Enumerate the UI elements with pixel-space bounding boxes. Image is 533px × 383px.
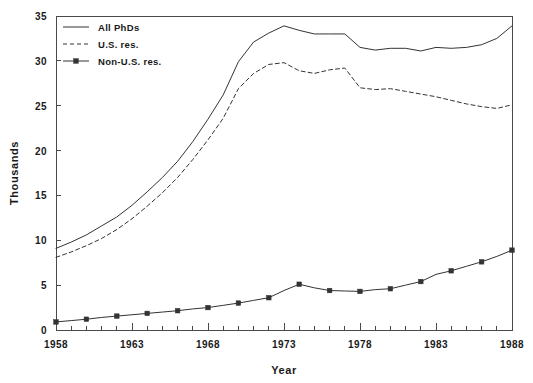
- data-series: [54, 26, 515, 324]
- series-marker: [449, 268, 454, 273]
- svg-text:25: 25: [35, 101, 47, 112]
- series-marker: [479, 260, 484, 265]
- series-marker: [419, 279, 424, 284]
- series-marker: [145, 311, 150, 316]
- plot-area: 0510152025303519581963196819731978198319…: [0, 0, 533, 383]
- svg-text:1973: 1973: [272, 339, 296, 350]
- series-marker: [267, 295, 272, 300]
- series-marker: [297, 282, 302, 287]
- x-axis-title: Year: [271, 364, 297, 376]
- legend-label-3: Non-U.S. res.: [98, 56, 162, 67]
- series-marker: [388, 286, 393, 291]
- svg-text:1978: 1978: [348, 339, 372, 350]
- series-marker: [175, 308, 180, 313]
- svg-text:1983: 1983: [424, 339, 448, 350]
- svg-text:1958: 1958: [44, 339, 68, 350]
- series-marker: [236, 301, 241, 306]
- svg-text:20: 20: [35, 146, 47, 157]
- svg-text:0: 0: [41, 325, 47, 336]
- series-line: [56, 250, 512, 322]
- line-chart: 0510152025303519581963196819731978198319…: [0, 0, 533, 383]
- svg-text:30: 30: [35, 56, 47, 67]
- chart-legend: All PhDsU.S. res.Non-U.S. res.: [63, 22, 162, 67]
- series-marker: [84, 317, 89, 322]
- series-marker: [327, 288, 332, 293]
- series-marker: [206, 305, 211, 310]
- series-marker: [54, 320, 59, 325]
- svg-text:1963: 1963: [120, 339, 144, 350]
- svg-text:1968: 1968: [196, 339, 220, 350]
- legend-marker-3: [74, 59, 79, 64]
- series-marker: [510, 248, 515, 253]
- series-marker: [358, 289, 363, 294]
- series-line: [56, 63, 512, 258]
- svg-text:15: 15: [35, 190, 47, 201]
- svg-text:35: 35: [35, 11, 47, 22]
- y-axis-title: Thousands: [8, 141, 20, 205]
- svg-text:1988: 1988: [500, 339, 524, 350]
- series-marker: [115, 314, 120, 319]
- svg-text:10: 10: [35, 235, 47, 246]
- svg-text:5: 5: [41, 280, 47, 291]
- legend-label-1: All PhDs: [98, 22, 139, 33]
- legend-label-2: U.S. res.: [98, 39, 139, 50]
